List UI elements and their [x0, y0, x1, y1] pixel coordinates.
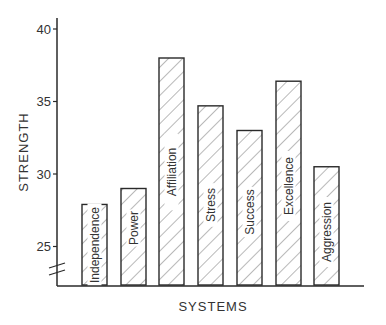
y-tick-label: 35 — [37, 94, 51, 109]
bar-label: Stress — [204, 188, 218, 222]
bar-label: Power — [127, 211, 141, 245]
y-axis-title: STRENGTH — [16, 112, 31, 192]
y-tick-label: 40 — [37, 22, 51, 37]
bar-affiliation: Affiliation — [159, 58, 184, 285]
bars-group: IndependencePowerAffiliationStressSucces… — [82, 58, 339, 287]
bar-stress: Stress — [198, 106, 223, 285]
bar-label: Aggression — [320, 202, 334, 262]
bar-excellence: Excellence — [276, 81, 301, 285]
bar-label: Success — [243, 189, 257, 234]
y-tick-label: 30 — [37, 167, 51, 182]
bar-success: Success — [237, 131, 262, 286]
bar-label: Independence — [88, 207, 102, 283]
y-ticks-group: 25303540 — [37, 22, 57, 255]
bar-power: Power — [121, 189, 146, 286]
bar-chart: IndependencePowerAffiliationStressSucces… — [0, 0, 386, 325]
bar-independence: Independence — [82, 203, 107, 286]
bar-label: Excellence — [282, 157, 296, 215]
bar-label: Affiliation — [165, 148, 179, 196]
bar-aggression: Aggression — [314, 167, 339, 285]
x-axis-title: SYSTEMS — [178, 299, 247, 314]
y-tick-label: 25 — [37, 239, 51, 254]
